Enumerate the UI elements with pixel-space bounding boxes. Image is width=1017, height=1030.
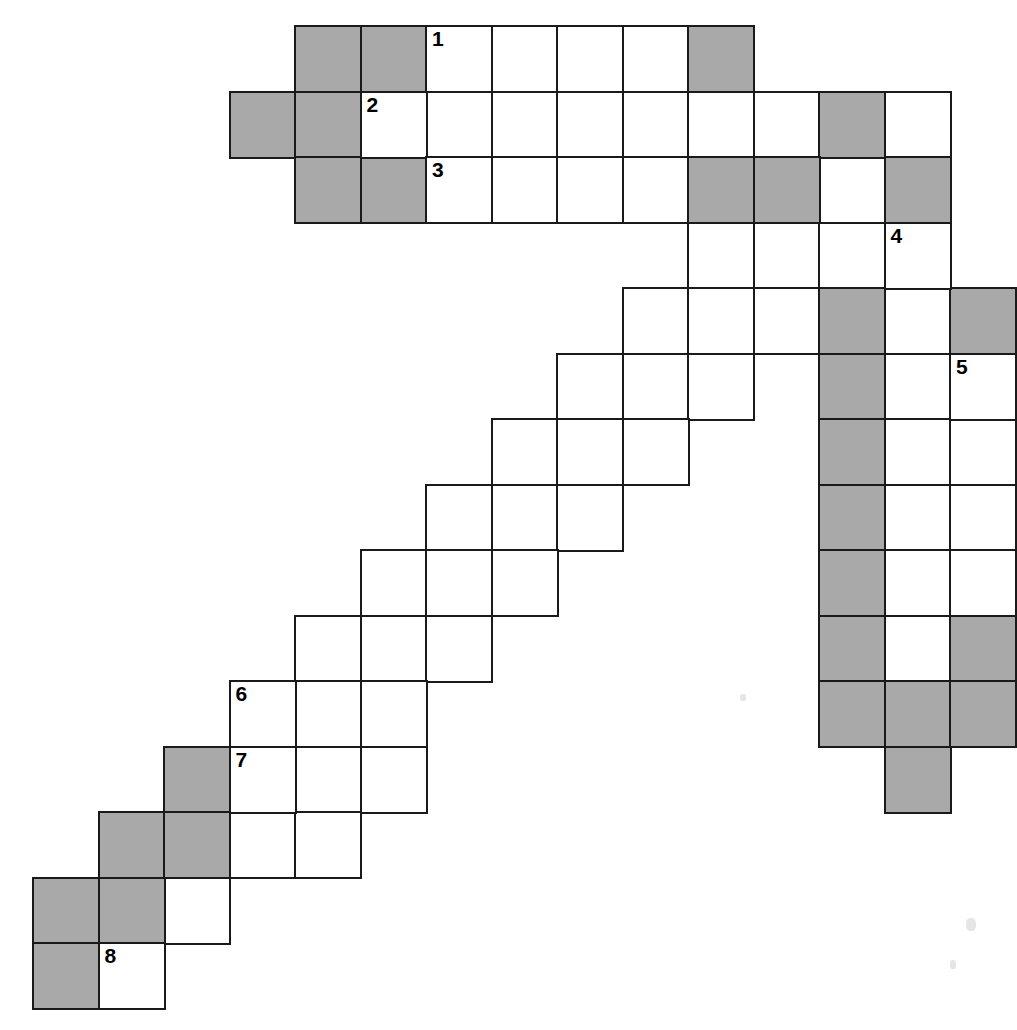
crossword-cell-blocked (98, 877, 166, 945)
crossword-cell-open[interactable] (360, 746, 428, 814)
crossword-cell-open[interactable] (884, 484, 952, 552)
crossword-cell-open[interactable] (753, 222, 821, 290)
crossword-cell-blocked (687, 25, 755, 93)
crossword-cell-open[interactable] (556, 25, 624, 93)
crossword-cell-open[interactable] (360, 680, 428, 748)
crossword-cell-open[interactable] (294, 746, 362, 814)
crossword-cell-open[interactable] (556, 353, 624, 421)
scan-artifact-speck (950, 960, 956, 969)
crossword-cell-open[interactable] (622, 91, 690, 159)
crossword-cell-open[interactable] (818, 156, 886, 224)
crossword-cell-numbered-4[interactable]: 4 (884, 222, 952, 290)
crossword-cell-blocked (818, 418, 886, 486)
crossword-cell-numbered-5[interactable]: 5 (949, 353, 1017, 421)
scan-artifact-speck (966, 918, 976, 931)
crossword-cell-blocked (818, 287, 886, 355)
cell-number-8: 8 (105, 945, 116, 967)
cell-number-1: 1 (432, 28, 443, 50)
crossword-cell-blocked (294, 25, 362, 93)
crossword-cell-open[interactable] (818, 222, 886, 290)
crossword-cell-numbered-6[interactable]: 6 (229, 680, 297, 748)
crossword-cell-open[interactable] (425, 549, 493, 617)
crossword-cell-numbered-2[interactable]: 2 (360, 91, 428, 159)
crossword-cell-open[interactable] (425, 615, 493, 683)
crossword-cell-numbered-1[interactable]: 1 (425, 25, 493, 93)
crossword-cell-blocked (818, 353, 886, 421)
crossword-cell-blocked (949, 680, 1017, 748)
crossword-cell-open[interactable] (622, 156, 690, 224)
crossword-cell-blocked (163, 746, 231, 814)
crossword-cell-open[interactable] (491, 418, 559, 486)
crossword-cell-open[interactable] (884, 549, 952, 617)
crossword-cell-blocked (98, 811, 166, 879)
crossword-cell-open[interactable] (884, 91, 952, 159)
crossword-cell-open[interactable] (556, 91, 624, 159)
crossword-cell-open[interactable] (687, 353, 755, 421)
crossword-cell-open[interactable] (622, 353, 690, 421)
crossword-cell-blocked (687, 156, 755, 224)
crossword-cell-open[interactable] (425, 484, 493, 552)
crossword-cell-open[interactable] (491, 549, 559, 617)
crossword-cell-open[interactable] (556, 484, 624, 552)
crossword-cell-blocked (818, 615, 886, 683)
crossword-cell-open[interactable] (687, 91, 755, 159)
crossword-cell-open[interactable] (294, 811, 362, 879)
crossword-cell-open[interactable] (884, 615, 952, 683)
crossword-cell-blocked (360, 25, 428, 93)
crossword-cell-open[interactable] (622, 418, 690, 486)
crossword-cell-open[interactable] (556, 156, 624, 224)
crossword-cell-blocked (818, 680, 886, 748)
crossword-cell-blocked (32, 877, 100, 945)
scan-artifact-speck (740, 694, 746, 701)
crossword-cell-open[interactable] (491, 25, 559, 93)
crossword-cell-open[interactable] (884, 287, 952, 355)
cell-number-7: 7 (236, 749, 247, 771)
crossword-cell-open[interactable] (556, 418, 624, 486)
crossword-cell-open[interactable] (491, 484, 559, 552)
crossword-cell-open[interactable] (687, 222, 755, 290)
crossword-cell-open[interactable] (687, 287, 755, 355)
crossword-cell-blocked (360, 156, 428, 224)
crossword-cell-numbered-7[interactable]: 7 (229, 746, 297, 814)
crossword-cell-open[interactable] (884, 353, 952, 421)
crossword-cell-blocked (949, 287, 1017, 355)
crossword-cell-open[interactable] (949, 549, 1017, 617)
crossword-cell-open[interactable] (622, 25, 690, 93)
crossword-cell-open[interactable] (360, 615, 428, 683)
crossword-cell-open[interactable] (491, 91, 559, 159)
cell-number-3: 3 (432, 159, 443, 181)
cell-number-5: 5 (956, 356, 967, 378)
crossword-cell-open[interactable] (425, 91, 493, 159)
crossword-cell-blocked (949, 615, 1017, 683)
crossword-cell-open[interactable] (884, 418, 952, 486)
crossword-cell-blocked (818, 91, 886, 159)
crossword-cell-open[interactable] (753, 287, 821, 355)
crossword-cell-open[interactable] (491, 156, 559, 224)
crossword-cell-blocked (884, 680, 952, 748)
cell-number-6: 6 (236, 683, 247, 705)
crossword-cell-blocked (163, 811, 231, 879)
cell-number-2: 2 (367, 94, 378, 116)
crossword-cell-open[interactable] (229, 811, 297, 879)
crossword-cell-blocked (753, 156, 821, 224)
crossword-cell-blocked (32, 942, 100, 1010)
crossword-cell-open[interactable] (163, 877, 231, 945)
crossword-cell-open[interactable] (622, 287, 690, 355)
cell-number-4: 4 (891, 225, 902, 247)
crossword-cell-blocked (294, 91, 362, 159)
crossword-cell-open[interactable] (294, 615, 362, 683)
crossword-cell-open[interactable] (949, 484, 1017, 552)
crossword-cell-open[interactable] (294, 680, 362, 748)
crossword-cell-open[interactable] (360, 549, 428, 617)
crossword-cell-blocked (884, 156, 952, 224)
crossword-cell-blocked (229, 91, 297, 159)
crossword-cell-numbered-3[interactable]: 3 (425, 156, 493, 224)
crossword-cell-open[interactable] (753, 91, 821, 159)
crossword-cell-blocked (818, 484, 886, 552)
crossword-cell-numbered-8[interactable]: 8 (98, 942, 166, 1010)
crossword-cell-blocked (294, 156, 362, 224)
crossword-cell-open[interactable] (949, 418, 1017, 486)
crossword-cell-blocked (818, 549, 886, 617)
crossword-cell-blocked (884, 746, 952, 814)
